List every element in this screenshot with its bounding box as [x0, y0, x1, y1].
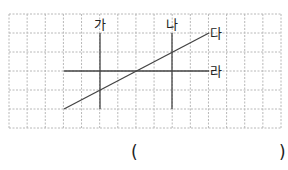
- label-ga: 가: [94, 17, 106, 32]
- answer-open-paren: (: [131, 142, 138, 162]
- answer-blank[interactable]: [142, 144, 278, 164]
- label-ra: 라: [210, 64, 222, 79]
- label-da: 다: [210, 26, 222, 41]
- answer-close-paren: ): [279, 142, 286, 162]
- label-na: 나: [166, 17, 178, 32]
